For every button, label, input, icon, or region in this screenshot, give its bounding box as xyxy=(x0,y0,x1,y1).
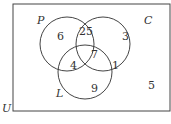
set-l-label: L xyxy=(55,87,63,100)
region-c-only: 3 xyxy=(122,30,129,43)
region-l-only: 9 xyxy=(91,82,98,95)
universe-label: U xyxy=(2,102,12,115)
set-c-label: C xyxy=(144,14,153,27)
region-outside: 5 xyxy=(148,79,155,92)
region-p-only: 6 xyxy=(57,30,64,43)
set-l-circle xyxy=(58,45,112,99)
venn-diagram: P C L U 6 25 3 7 4 1 9 5 xyxy=(0,0,171,124)
set-p-label: P xyxy=(36,14,45,27)
region-c-l: 1 xyxy=(112,59,119,72)
region-p-l: 4 xyxy=(70,59,77,72)
region-p-c-l: 7 xyxy=(91,48,98,61)
region-p-c: 25 xyxy=(79,25,93,38)
